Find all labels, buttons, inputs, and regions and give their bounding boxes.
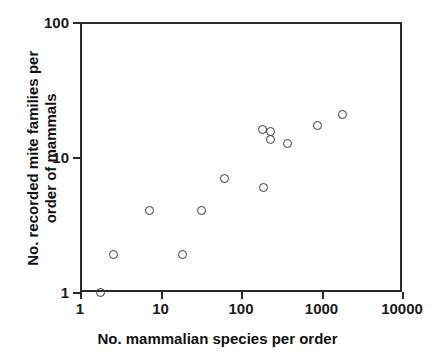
data-point — [145, 206, 154, 215]
x-axis-tick-label: 100 — [228, 300, 253, 317]
x-axis-tick — [80, 292, 82, 299]
x-axis-tick-label: 1 — [76, 300, 84, 317]
x-axis-tick — [161, 292, 163, 299]
data-point — [259, 183, 268, 192]
data-point — [338, 110, 347, 119]
data-point — [220, 174, 229, 183]
x-axis-tick — [402, 292, 404, 299]
x-axis-tick — [322, 292, 324, 299]
y-axis-tick — [73, 292, 80, 294]
data-point — [197, 206, 206, 215]
y-axis-tick — [73, 22, 80, 24]
y-axis-tick-label: 1 — [61, 284, 69, 301]
y-axis-label-line-1: No. recorded mite families per — [24, 28, 42, 288]
data-point — [266, 135, 275, 144]
x-axis-tick-label: 10 — [152, 300, 169, 317]
data-point — [109, 250, 118, 259]
x-axis-label: No. mammalian species per order — [0, 330, 435, 347]
y-axis-tick — [73, 157, 80, 159]
y-axis-label-line-2: order of mammals — [42, 28, 60, 288]
x-axis-tick — [241, 292, 243, 299]
y-axis-label: No. recorded mite families per order of … — [24, 28, 61, 288]
scatter-plot-figure: 110100100010000110100 No. mammalian spec… — [0, 0, 435, 363]
x-axis-tick-label: 1000 — [305, 300, 338, 317]
data-point — [96, 288, 105, 297]
data-point — [283, 139, 292, 148]
data-point — [313, 121, 322, 130]
plot-data-area — [80, 22, 402, 292]
data-point — [178, 250, 187, 259]
x-axis-tick-label: 10000 — [381, 300, 423, 317]
